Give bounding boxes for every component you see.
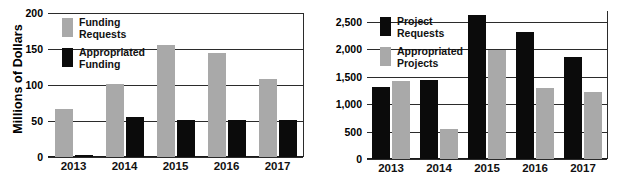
bar bbox=[516, 32, 534, 159]
x-axis-tick-label: 2014 bbox=[99, 160, 150, 172]
bar bbox=[208, 53, 226, 157]
bar bbox=[177, 120, 195, 157]
bar bbox=[564, 57, 582, 160]
legend-label: Funding Requests bbox=[79, 17, 126, 40]
x-axis-tick-label: 2017 bbox=[559, 162, 607, 174]
right-border-right bbox=[607, 11, 609, 159]
legend-left: Funding RequestsAppropriated Funding bbox=[62, 17, 145, 77]
bar bbox=[75, 155, 93, 157]
gridline bbox=[48, 13, 303, 14]
dual-bar-chart-figure: Millions of Dollars 20132014201520162017… bbox=[0, 0, 621, 176]
x-axis-labels-left: 20132014201520162017 bbox=[48, 160, 303, 172]
x-axis-tick-label: 2014 bbox=[415, 162, 463, 174]
legend-item: Project Requests bbox=[380, 16, 463, 39]
y-axis-tick-label: 100 bbox=[25, 80, 43, 91]
funding-chart-panel: Millions of Dollars 20132014201520162017… bbox=[0, 0, 312, 176]
x-axis-tick-label: 2016 bbox=[511, 162, 559, 174]
bar bbox=[536, 88, 554, 159]
y-axis-tick-label: 1,500 bbox=[336, 72, 362, 83]
bar bbox=[106, 84, 124, 157]
legend-label: Appropriated Funding bbox=[79, 47, 145, 70]
y-axis-tick-label: 200 bbox=[25, 8, 43, 19]
legend-item: Appropriated Projects bbox=[380, 46, 463, 69]
bar bbox=[259, 79, 277, 157]
x-axis-labels-right: 20132014201520162017 bbox=[367, 162, 607, 174]
legend-swatch-icon bbox=[62, 18, 73, 37]
bar bbox=[372, 87, 390, 159]
projects-chart-panel: 20132014201520162017 05001,0001,5002,000… bbox=[312, 0, 621, 176]
y-axis-tick-label: 150 bbox=[25, 44, 43, 55]
x-axis-tick-label: 2015 bbox=[463, 162, 511, 174]
y-axis-tick-label: 500 bbox=[344, 127, 362, 138]
bar bbox=[228, 120, 246, 157]
x-axis-tick-label: 2017 bbox=[252, 160, 303, 172]
legend-swatch-icon bbox=[380, 47, 391, 66]
bar-group bbox=[511, 11, 559, 159]
bar bbox=[392, 81, 410, 159]
bar bbox=[279, 120, 297, 157]
bar bbox=[55, 109, 73, 157]
legend-item: Funding Requests bbox=[62, 17, 145, 40]
y-axis-tick-label: 1,000 bbox=[336, 99, 362, 110]
legend-swatch-icon bbox=[380, 17, 391, 36]
bar bbox=[584, 92, 602, 159]
legend-label: Appropriated Projects bbox=[397, 46, 463, 69]
x-axis-tick-label: 2013 bbox=[367, 162, 415, 174]
legend-swatch-icon bbox=[62, 48, 73, 67]
bar-group bbox=[463, 11, 511, 159]
y-axis-tick-label: 2,500 bbox=[336, 17, 362, 28]
x-axis-tick-label: 2013 bbox=[48, 160, 99, 172]
bar bbox=[440, 129, 458, 159]
x-axis-tick-label: 2015 bbox=[150, 160, 201, 172]
bar-group bbox=[559, 11, 607, 159]
legend-right: Project RequestsAppropriated Projects bbox=[380, 16, 463, 76]
y-axis-tick-label: 0 bbox=[356, 154, 362, 165]
gridline bbox=[367, 159, 607, 160]
bar bbox=[420, 80, 438, 159]
y-axis-title-left: Millions of Dollars bbox=[11, 9, 25, 149]
bar bbox=[488, 50, 506, 159]
y-axis-tick-label: 2,000 bbox=[336, 44, 362, 55]
bar bbox=[126, 117, 144, 157]
y-axis-tick-label: 50 bbox=[31, 116, 43, 127]
legend-item: Appropriated Funding bbox=[62, 47, 145, 70]
x-axis-tick-label: 2016 bbox=[201, 160, 252, 172]
bar bbox=[468, 15, 486, 159]
gridline bbox=[48, 157, 303, 158]
bar bbox=[157, 45, 175, 157]
y-axis-tick-label: 0 bbox=[37, 152, 43, 163]
legend-label: Project Requests bbox=[397, 16, 444, 39]
